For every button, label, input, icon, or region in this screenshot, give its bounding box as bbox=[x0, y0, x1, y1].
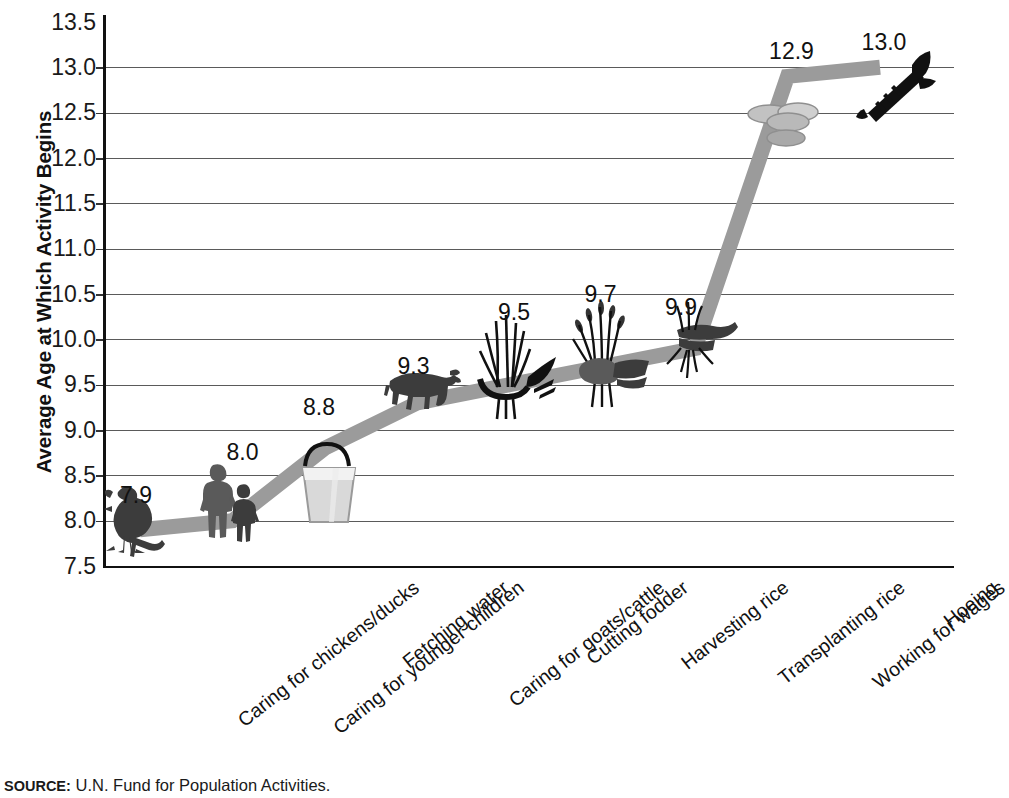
y-tickmark bbox=[96, 475, 103, 477]
y-tick-label: 11.5 bbox=[24, 192, 96, 215]
data-point-label: 8.0 bbox=[227, 441, 259, 464]
data-point-label: 12.9 bbox=[769, 40, 814, 63]
y-tick-label: 9.5 bbox=[24, 373, 96, 396]
y-axis-tick-labels: 13.513.012.512.011.511.010.510.09.59.08.… bbox=[18, 0, 96, 798]
y-tickmark bbox=[96, 67, 103, 69]
data-point-label: 13.0 bbox=[862, 31, 907, 54]
y-tickmark bbox=[96, 203, 103, 205]
y-tickmark bbox=[96, 158, 103, 160]
data-point-label: 7.9 bbox=[120, 484, 152, 507]
x-tick-label: Caring for chickens/ducks bbox=[233, 576, 423, 732]
plot-area: 7.98.08.89.39.59.79.912.913.0 bbox=[103, 15, 954, 568]
source-label: SOURCE: bbox=[4, 778, 71, 794]
y-tickmark bbox=[96, 385, 103, 387]
data-point-label: 9.7 bbox=[585, 283, 617, 306]
y-tickmark bbox=[96, 521, 103, 523]
y-tickmark bbox=[96, 430, 103, 432]
y-tick-label: 12.0 bbox=[24, 147, 96, 170]
data-point-label: 9.9 bbox=[665, 296, 697, 319]
y-tick-label: 11.0 bbox=[24, 237, 96, 260]
y-tickmark bbox=[96, 249, 103, 251]
y-tick-label: 9.0 bbox=[24, 419, 96, 442]
y-tick-label: 13.0 bbox=[24, 56, 96, 79]
y-tick-label: 13.5 bbox=[24, 11, 96, 34]
source-note: SOURCE: U.N. Fund for Population Activit… bbox=[4, 776, 330, 795]
y-tickmark bbox=[96, 339, 103, 341]
y-tickmark bbox=[96, 294, 103, 296]
source-text: U.N. Fund for Population Activities. bbox=[75, 776, 330, 794]
data-point-label: 9.5 bbox=[498, 301, 530, 324]
data-point-label: 9.3 bbox=[398, 355, 430, 378]
y-tick-label: 10.0 bbox=[24, 328, 96, 351]
y-tick-label: 12.5 bbox=[24, 101, 96, 124]
y-tick-label: 8.0 bbox=[24, 509, 96, 532]
x-tick-label: Caring for goats/cattle bbox=[504, 576, 668, 712]
x-tick-label: Harvesting rice bbox=[676, 576, 793, 674]
y-tick-label: 10.5 bbox=[24, 283, 96, 306]
data-point-label: 8.8 bbox=[303, 396, 335, 419]
y-tick-label: 8.5 bbox=[24, 464, 96, 487]
x-axis-category-labels: Caring for chickens/ducksCaring for youn… bbox=[103, 570, 954, 770]
series-line bbox=[103, 15, 954, 568]
y-tick-label: 7.5 bbox=[24, 555, 96, 578]
y-tickmark bbox=[96, 113, 103, 115]
